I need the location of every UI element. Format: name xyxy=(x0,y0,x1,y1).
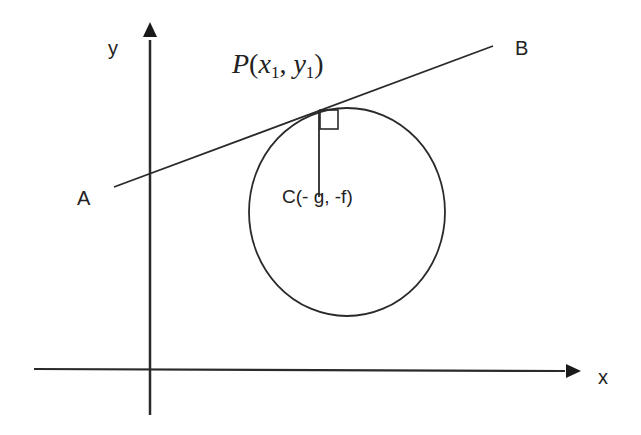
y-axis-label: y xyxy=(108,37,118,59)
right-angle-marker xyxy=(320,110,338,129)
point-p-label: P(x1, y1) xyxy=(231,48,324,82)
circle xyxy=(249,108,445,316)
y-axis xyxy=(143,22,157,415)
x-axis-label: x xyxy=(598,366,608,388)
x-axis-arrow-icon xyxy=(566,364,581,378)
center-label: C(- g, -f) xyxy=(282,186,353,207)
diagram-canvas: y x A B C(- g, -f) P(x1, y1) xyxy=(0,0,641,435)
point-a-label: A xyxy=(77,187,91,209)
point-b-label: B xyxy=(515,37,528,59)
x-axis xyxy=(34,364,581,378)
y-axis-arrow-icon xyxy=(143,22,157,37)
